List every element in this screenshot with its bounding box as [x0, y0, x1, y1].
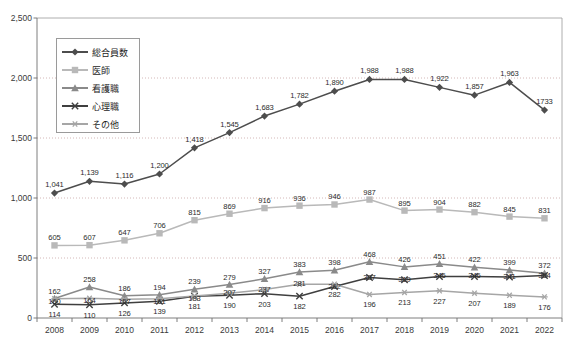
x-axis-tick-label: 2016: [315, 325, 355, 335]
data-point: [86, 178, 93, 185]
data-point: [506, 213, 512, 219]
data-point: [506, 293, 512, 298]
data-point: [226, 211, 232, 217]
data-label: 1,988: [395, 66, 414, 75]
legend-marker-icon: [62, 46, 88, 58]
data-point: [436, 84, 443, 91]
data-point: [226, 129, 233, 136]
data-label: 398: [328, 258, 340, 267]
legend-point: [72, 121, 78, 126]
data-label: 162: [48, 287, 60, 296]
data-point: [51, 242, 57, 248]
legend-label: 心理職: [92, 100, 119, 113]
data-label: 337: [363, 273, 375, 282]
y-axis-tick-label: 500: [0, 253, 32, 263]
data-point: [541, 294, 547, 299]
legend-point: [71, 48, 78, 55]
data-label: 426: [398, 255, 410, 264]
data-point: [471, 209, 477, 215]
data-label: 160: [48, 297, 60, 306]
data-point: [261, 112, 268, 119]
x-axis-tick-label: 2015: [280, 325, 320, 335]
data-label: 1,988: [360, 66, 379, 75]
data-label: 422: [468, 255, 480, 264]
data-label: 258: [83, 275, 95, 284]
data-label: 327: [258, 267, 270, 276]
x-axis-tick-label: 2008: [35, 325, 75, 335]
data-point: [366, 76, 373, 83]
line-chart: 05001,0001,5002,0002,5002008200920102011…: [0, 0, 568, 353]
data-label: 468: [363, 250, 375, 259]
data-label: 282: [328, 290, 340, 299]
data-point: [366, 292, 372, 297]
data-label: 207: [223, 288, 235, 297]
data-label: 346: [468, 271, 480, 280]
legend-point: [71, 84, 79, 91]
x-axis-tick-label: 2018: [385, 325, 425, 335]
data-label: 1733: [536, 97, 553, 106]
data-label: 319: [398, 275, 410, 284]
legend-marker-glyph: [62, 100, 88, 112]
legend-item-1[interactable]: 医師: [57, 61, 139, 79]
y-axis-tick-label: 2,500: [0, 13, 32, 23]
data-label: 1,782: [290, 91, 309, 100]
data-point: [51, 189, 58, 196]
data-label: 1,041: [45, 180, 64, 189]
data-point: [191, 217, 197, 223]
legend-point: [72, 103, 78, 109]
data-label: 164: [83, 296, 95, 305]
data-label: 182: [293, 302, 305, 311]
data-label: 987: [363, 188, 375, 197]
legend-label: 看護職: [92, 82, 119, 95]
data-label: 946: [328, 192, 340, 201]
legend-item-3[interactable]: 心理職: [57, 97, 139, 115]
y-axis-tick-label: 2,000: [0, 73, 32, 83]
x-axis-tick-label: 2019: [420, 325, 460, 335]
data-label: 161: [153, 297, 165, 306]
data-label: 176: [538, 303, 550, 312]
legend-label: 医師: [92, 64, 110, 77]
legend-item-4[interactable]: その他: [57, 115, 139, 133]
y-axis-tick-label: 0: [0, 313, 32, 323]
data-point: [86, 242, 92, 248]
data-label: 341: [503, 272, 515, 281]
data-label: 831: [538, 206, 550, 215]
data-label: 186: [118, 284, 130, 293]
legend-marker-icon: [62, 118, 88, 130]
legend-label: 総合員数: [92, 46, 128, 59]
data-label: 647: [118, 228, 130, 237]
y-axis-tick-label: 1,500: [0, 133, 32, 143]
data-label: 706: [153, 221, 165, 230]
data-label: 882: [468, 200, 480, 209]
data-point: [471, 92, 478, 99]
legend-marker-icon: [62, 64, 88, 76]
legend-marker-glyph: [62, 118, 88, 130]
data-label: 1,139: [80, 168, 99, 177]
data-label: 196: [363, 300, 375, 309]
data-label: 183: [188, 294, 200, 303]
legend-item-2[interactable]: 看護職: [57, 79, 139, 97]
data-label: 904: [433, 198, 445, 207]
data-point: [261, 205, 267, 211]
data-point: [296, 101, 303, 108]
data-label: 916: [258, 196, 270, 205]
legend-marker-icon: [62, 82, 88, 94]
data-label: 139: [153, 307, 165, 316]
data-point: [366, 196, 372, 202]
data-label: 1,545: [220, 120, 239, 129]
data-label: 605: [48, 233, 60, 242]
data-point: [541, 215, 547, 221]
legend-item-0[interactable]: 総合員数: [57, 43, 139, 61]
data-label: 157: [118, 297, 130, 306]
data-label: 110: [84, 311, 96, 320]
data-point: [121, 180, 128, 187]
data-point: [436, 206, 442, 212]
data-label: 399: [503, 258, 515, 267]
legend-marker-glyph: [62, 46, 88, 58]
data-label: 207: [468, 299, 480, 308]
data-label: 227: [433, 297, 445, 306]
data-label: 383: [293, 260, 305, 269]
data-label: 237: [258, 285, 270, 294]
data-point: [86, 283, 94, 290]
data-point: [156, 230, 162, 236]
